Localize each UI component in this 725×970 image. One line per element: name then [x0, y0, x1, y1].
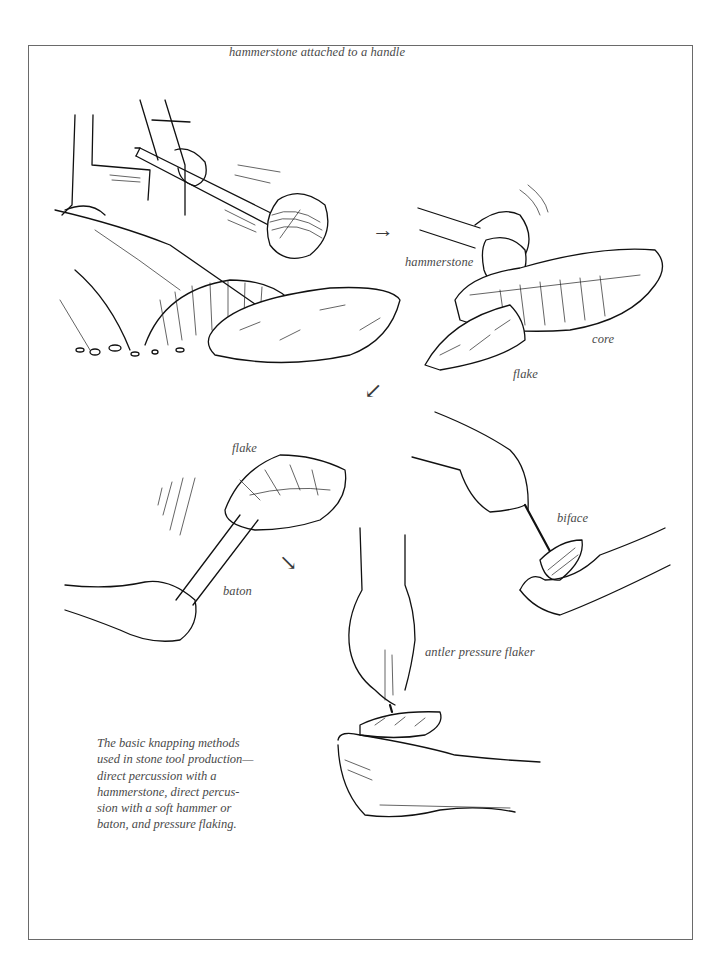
- label-biface: biface: [557, 511, 588, 526]
- label-core: core: [592, 332, 614, 347]
- caption-line: used in stone tool production—: [97, 751, 272, 767]
- hafted-hammerstone-drawing: [55, 100, 400, 363]
- label-baton: baton: [223, 584, 252, 599]
- caption-line: hammerstone, direct percus-: [97, 784, 272, 800]
- baton-drawing: [65, 455, 346, 641]
- figure-caption: The basic knapping methods used in stone…: [97, 735, 272, 833]
- label-flake-top: flake: [513, 367, 538, 382]
- caption-line: baton, and pressure flaking.: [97, 816, 272, 832]
- label-antler-pressure-flaker: antler pressure flaker: [425, 645, 535, 660]
- label-flake-middle: flake: [232, 441, 257, 456]
- arrow-down-right-icon: ↘: [279, 552, 297, 574]
- hammerstone-core-drawing: [418, 185, 663, 370]
- caption-line: The basic knapping methods: [97, 735, 272, 751]
- label-hammerstone: hammerstone: [405, 255, 473, 270]
- arrow-right-icon: →: [372, 219, 394, 241]
- antler-pressure-flaker-drawing: [338, 528, 540, 817]
- caption-line: direct percussion with a: [97, 768, 272, 784]
- biface-drawing: [412, 412, 670, 615]
- label-hammerstone-handle: hammerstone attached to a handle: [229, 45, 405, 60]
- caption-line: sion with a soft hammer or: [97, 800, 272, 816]
- arrow-down-left-icon: ↙: [364, 380, 382, 402]
